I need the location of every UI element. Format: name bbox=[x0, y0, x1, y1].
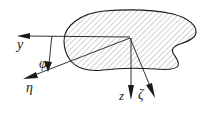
eta-axis-label: η bbox=[26, 81, 33, 95]
z-axis-arrowhead bbox=[128, 85, 134, 100]
coordinate-system-diagram: y η φ z ζ bbox=[0, 0, 211, 113]
zeta-axis-arrowhead bbox=[146, 83, 155, 98]
y-axis-label: y bbox=[17, 38, 23, 52]
phi-angle-label: φ bbox=[39, 57, 47, 71]
zeta-axis-label: ζ bbox=[138, 88, 144, 102]
diagram-canvas bbox=[0, 0, 211, 113]
eta-axis-arrowhead bbox=[23, 72, 38, 79]
z-axis-label: z bbox=[119, 89, 124, 102]
